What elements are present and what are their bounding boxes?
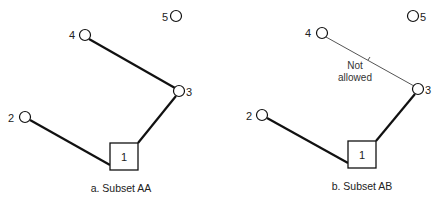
node-2 xyxy=(20,112,31,123)
node-2 xyxy=(257,110,268,121)
not-allowed-note-line2: allowed xyxy=(338,72,372,83)
panel-subset-aa: 1 2 3 4 5 a. Subset AA xyxy=(8,11,192,195)
node-label-3: 3 xyxy=(425,84,431,96)
root-label: 1 xyxy=(121,151,127,163)
panel-subset-ab: 1 2 3 4 5 Not allowed b. Subset AB xyxy=(246,11,431,193)
edge-1-2 xyxy=(267,118,348,163)
edge-1-2 xyxy=(30,120,110,165)
node-label-3: 3 xyxy=(186,86,192,98)
node-3 xyxy=(174,86,185,97)
node-label-5: 5 xyxy=(162,11,168,23)
not-allowed-tick xyxy=(368,57,370,60)
root-label: 1 xyxy=(359,149,365,161)
node-label-4: 4 xyxy=(69,29,75,41)
edge-1-3 xyxy=(138,96,176,143)
edge-1-3 xyxy=(376,94,415,141)
node-5 xyxy=(408,11,419,22)
node-label-4: 4 xyxy=(305,27,311,39)
node-4 xyxy=(317,28,328,39)
caption-b: b. Subset AB xyxy=(332,180,393,192)
caption-a: a. Subset AA xyxy=(91,182,152,194)
node-5 xyxy=(171,11,182,22)
edge-3-4 xyxy=(89,39,175,88)
not-allowed-note-line1: Not xyxy=(347,60,363,71)
node-label-2: 2 xyxy=(246,110,252,122)
node-label-2: 2 xyxy=(8,112,14,124)
node-4 xyxy=(80,30,91,41)
diagram-canvas: 1 2 3 4 5 a. Subset AA 1 2 3 4 5 Not all… xyxy=(0,0,441,205)
node-label-5: 5 xyxy=(420,11,426,23)
node-3 xyxy=(413,84,424,95)
